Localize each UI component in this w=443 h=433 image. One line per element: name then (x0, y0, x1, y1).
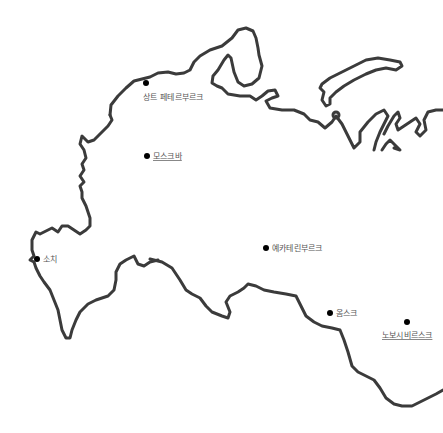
city-marker-icon (144, 153, 150, 159)
city-label: 노보시비르스크 (382, 329, 432, 340)
west-border (30, 115, 158, 338)
city-label: 소치 (43, 253, 57, 264)
city-marker-icon (34, 256, 40, 262)
city-marker-icon (263, 245, 269, 251)
city-novosibirsk[interactable]: 노보시비르스크 (382, 319, 432, 340)
city-label: 모스크바 (153, 150, 182, 161)
city-saint-petersburg[interactable]: 상트 페테르부르크 (143, 80, 203, 102)
island-outline (320, 58, 402, 106)
map-canvas (0, 0, 443, 433)
east-coastline-inner (382, 140, 400, 150)
city-label: 옴스크 (336, 307, 358, 318)
city-omsk[interactable]: 옴스크 (327, 307, 358, 318)
city-label: 상트 페테르부르크 (143, 91, 203, 102)
city-yekaterinburg[interactable]: 예카테린부르크 (263, 242, 322, 253)
city-sochi[interactable]: 소치 (34, 253, 57, 264)
east-coastline (384, 110, 443, 136)
city-marker-icon (404, 319, 410, 325)
city-label: 예카테린부르크 (272, 242, 322, 253)
city-marker-icon (143, 80, 149, 86)
city-moscow[interactable]: 모스크바 (144, 150, 182, 161)
city-marker-icon (327, 310, 333, 316)
